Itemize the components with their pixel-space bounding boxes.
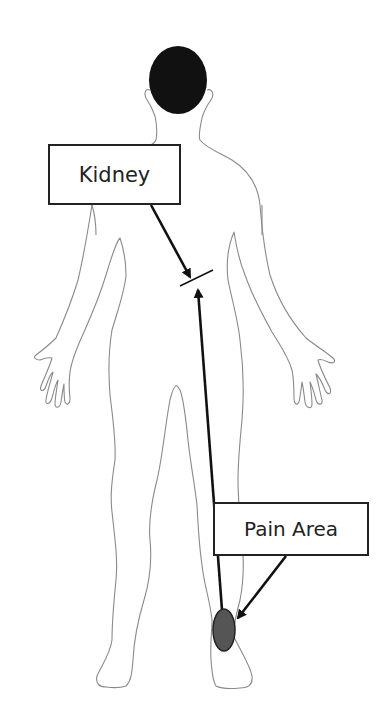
kidney-label-box: Kidney	[48, 144, 181, 205]
body-diagram	[0, 0, 389, 727]
pain-area-arrow	[238, 556, 286, 618]
nerve-junction-line	[180, 270, 213, 286]
pain-spot	[213, 609, 235, 651]
body-right-outline	[176, 90, 335, 689]
kidney-arrow	[151, 205, 190, 277]
pain-area-label: Pain Area	[244, 517, 338, 541]
left-armpit-line	[92, 205, 96, 235]
head	[149, 46, 207, 114]
pain-area-label-box: Pain Area	[213, 502, 369, 556]
kidney-label: Kidney	[79, 163, 151, 187]
